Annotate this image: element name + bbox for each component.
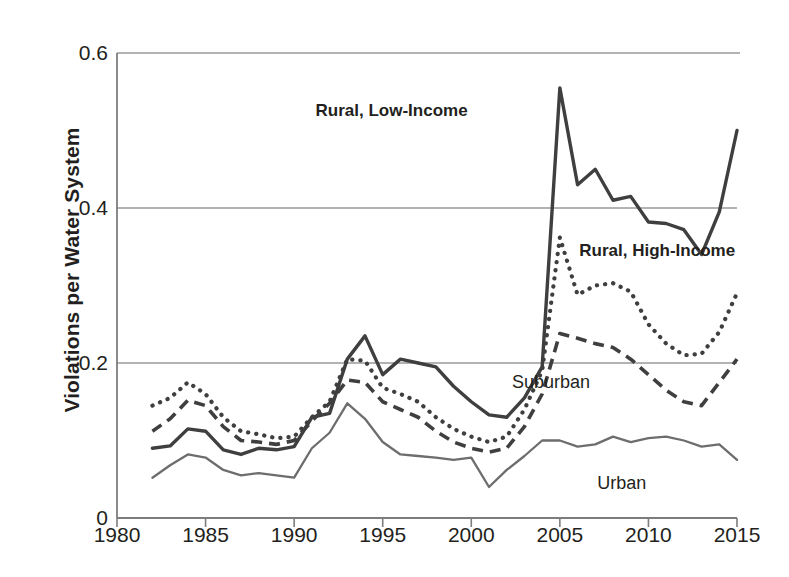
series-label-suburban: Suburban: [512, 373, 590, 391]
series-line-urban: [152, 403, 737, 487]
chart-figure: Violations per Water System 00.20.40.6 1…: [0, 0, 789, 577]
series-line-rural-high-income: [152, 237, 737, 442]
series-label-rural-high-income: Rural, High-Income: [579, 242, 735, 259]
plot-area: [0, 0, 789, 577]
x-tick-label: 1995: [343, 524, 423, 545]
x-tick-label: 1980: [77, 524, 157, 545]
x-tick-label: 1990: [254, 524, 334, 545]
x-tick-label: 2015: [697, 524, 777, 545]
series-label-rural-low-income: Rural, Low-Income: [316, 102, 468, 119]
x-axis-tick-labels: 19801985199019952000200520102015: [0, 524, 789, 564]
x-tick-label: 2005: [520, 524, 600, 545]
x-tick-label: 1985: [166, 524, 246, 545]
series-line-suburban: [152, 334, 737, 453]
x-tick-label: 2010: [608, 524, 688, 545]
x-tick-label: 2000: [431, 524, 511, 545]
series-line-rural-low-income: [152, 88, 737, 455]
series-label-urban: Urban: [597, 474, 646, 492]
